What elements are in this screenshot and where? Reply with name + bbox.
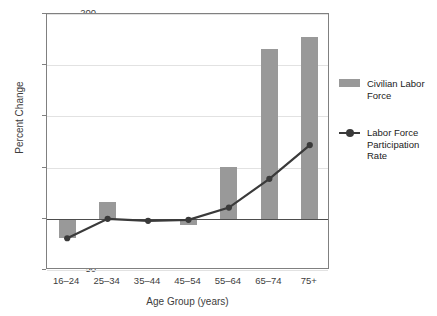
gridline (47, 14, 328, 15)
y-tick-mark (42, 269, 46, 270)
legend-item-labor-force-participation-rate[interactable]: Labor Force Participation Rate (339, 127, 437, 162)
legend-item-civilian-labor-force[interactable]: Civilian Labor Force (339, 78, 437, 101)
gridline (47, 65, 328, 66)
plot-area (46, 13, 329, 269)
gridline (47, 168, 328, 169)
line-marker-icon (339, 132, 360, 134)
bar (220, 167, 237, 219)
gridline (47, 116, 328, 117)
bar (301, 37, 318, 219)
chart-container: Percent Change −50050100150200 16–2425–3… (0, 0, 437, 316)
chart-legend: Civilian Labor Force Labor Force Partici… (339, 78, 437, 188)
y-axis-title: Percent Change (14, 43, 25, 193)
zero-baseline (47, 219, 328, 220)
bar-swatch-icon (339, 79, 360, 87)
bar (261, 49, 278, 219)
x-tick-label: 75+ (279, 276, 339, 286)
line-series-labor-force-participation-rate (47, 14, 330, 270)
gridline (47, 270, 328, 271)
bar (99, 202, 116, 218)
legend-label: Labor Force Participation Rate (367, 127, 419, 161)
x-axis-title: Age Group (years) (46, 296, 329, 307)
bar (59, 219, 76, 238)
legend-label: Civilian Labor Force (367, 78, 425, 101)
